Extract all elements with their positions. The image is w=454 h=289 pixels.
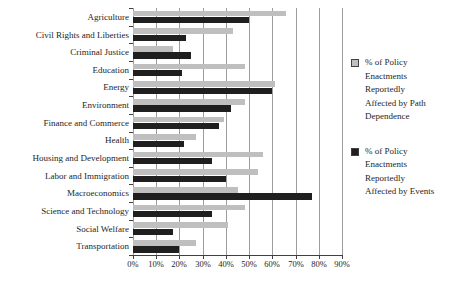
category-label-environment: Environment	[0, 100, 129, 110]
legend-label-line: Affected by Events	[365, 185, 434, 199]
gridline-20%	[179, 8, 180, 255]
x-axis-tick	[272, 255, 273, 259]
bar-chart: AgricultureCivil Rights and LibertiesCri…	[0, 0, 454, 289]
bar-social-welfare-events	[133, 229, 173, 235]
category-label-health: Health	[0, 135, 129, 145]
category-label-social-welfare: Social Welfare	[0, 224, 129, 234]
bar-environment-path-dependence	[133, 99, 245, 105]
bar-social-welfare-path-dependence	[133, 222, 228, 228]
legend-label-line: % of Policy	[365, 56, 426, 70]
category-label-agriculture: Agriculture	[0, 12, 129, 22]
bar-criminal-justice-path-dependence	[133, 46, 173, 52]
category-label-macroeconomics: Macroeconomics	[0, 188, 129, 198]
category-tick	[129, 61, 133, 62]
legend-marker-path-dependence-icon	[351, 59, 359, 67]
bar-macroeconomics-events	[133, 193, 312, 199]
legend: % of PolicyEnactmentsReportedlyAffected …	[351, 56, 451, 220]
gridline-50%	[249, 8, 250, 255]
x-axis-tick	[249, 255, 250, 259]
bar-education-path-dependence	[133, 64, 245, 70]
x-axis-tick	[156, 255, 157, 259]
bar-labor-and-immigration-path-dependence	[133, 169, 258, 175]
bar-transportation-events	[133, 246, 179, 252]
x-axis-tick	[342, 255, 343, 259]
legend-entry-path-dependence: % of PolicyEnactmentsReportedlyAffected …	[351, 56, 451, 124]
bar-civil-rights-and-liberties-path-dependence	[133, 28, 233, 34]
gridline-80%	[319, 8, 320, 255]
bar-science-and-technology-path-dependence	[133, 205, 245, 211]
x-tick-label-10: 10%	[142, 259, 170, 269]
bar-macroeconomics-path-dependence	[133, 187, 238, 193]
x-axis-tick	[179, 255, 180, 259]
legend-label-line: Reportedly	[365, 172, 434, 186]
legend-label-line: % of Policy	[365, 145, 434, 159]
x-axis-tick	[133, 255, 134, 259]
bar-energy-path-dependence	[133, 81, 275, 87]
gridline-30%	[203, 8, 204, 255]
category-tick	[129, 114, 133, 115]
legend-label-line: Reportedly	[365, 83, 426, 97]
bar-environment-events	[133, 105, 231, 111]
bar-health-events	[133, 141, 184, 147]
category-label-energy: Energy	[0, 82, 129, 92]
legend-label-line: Dependence	[365, 110, 426, 124]
category-tick	[129, 43, 133, 44]
category-tick	[129, 149, 133, 150]
bar-criminal-justice-events	[133, 52, 191, 58]
x-tick-label-20: 20%	[165, 259, 193, 269]
category-label-labor-and-immigration: Labor and Immigration	[0, 171, 129, 181]
legend-label-events: % of PolicyEnactmentsReportedlyAffected …	[365, 145, 434, 199]
x-tick-label-80: 80%	[305, 259, 333, 269]
legend-label-line: Enactments	[365, 158, 434, 172]
category-tick	[129, 220, 133, 221]
x-axis-tick	[203, 255, 204, 259]
category-label-criminal-justice: Criminal Justice	[0, 47, 129, 57]
category-label-housing-and-development: Housing and Development	[0, 153, 129, 163]
legend-label-line: Enactments	[365, 70, 426, 84]
x-axis-tick	[319, 255, 320, 259]
category-label-science-and-technology: Science and Technology	[0, 206, 129, 216]
category-tick	[129, 26, 133, 27]
bar-transportation-path-dependence	[133, 240, 196, 246]
legend-label-line: Affected by Path	[365, 97, 426, 111]
x-tick-label-60: 60%	[258, 259, 286, 269]
x-tick-label-70: 70%	[282, 259, 310, 269]
category-tick	[129, 79, 133, 80]
bar-energy-events	[133, 88, 272, 94]
gridline-60%	[272, 8, 273, 255]
bar-housing-and-development-path-dependence	[133, 152, 263, 158]
category-tick	[129, 167, 133, 168]
gridline-40%	[226, 8, 227, 255]
bar-civil-rights-and-liberties-events	[133, 35, 186, 41]
bar-health-path-dependence	[133, 134, 196, 140]
bar-housing-and-development-events	[133, 158, 212, 164]
bar-agriculture-path-dependence	[133, 11, 286, 17]
gridline-90%	[342, 8, 343, 255]
category-tick	[129, 237, 133, 238]
x-tick-label-30: 30%	[189, 259, 217, 269]
gridline-70%	[296, 8, 297, 255]
category-tick	[129, 132, 133, 133]
category-tick	[129, 202, 133, 203]
bar-agriculture-events	[133, 17, 249, 23]
bar-finance-and-commerce-events	[133, 123, 219, 129]
category-axis: AgricultureCivil Rights and LibertiesCri…	[0, 8, 129, 255]
x-axis-tick	[226, 255, 227, 259]
legend-entry-events: % of PolicyEnactmentsReportedlyAffected …	[351, 145, 451, 199]
category-label-finance-and-commerce: Finance and Commerce	[0, 118, 129, 128]
x-tick-label-90: 90%	[328, 259, 356, 269]
category-tick	[129, 96, 133, 97]
plot-area	[133, 8, 342, 255]
x-tick-label-0: 0%	[119, 259, 147, 269]
category-label-civil-rights-and-liberties: Civil Rights and Liberties	[0, 30, 129, 40]
x-tick-label-40: 40%	[212, 259, 240, 269]
bar-science-and-technology-events	[133, 211, 212, 217]
legend-label-path-dependence: % of PolicyEnactmentsReportedlyAffected …	[365, 56, 426, 124]
category-tick	[129, 8, 133, 9]
x-tick-label-50: 50%	[235, 259, 263, 269]
x-axis-tick	[296, 255, 297, 259]
category-label-education: Education	[0, 65, 129, 75]
bar-labor-and-immigration-events	[133, 176, 226, 182]
category-label-transportation: Transportation	[0, 241, 129, 251]
bar-finance-and-commerce-path-dependence	[133, 117, 224, 123]
